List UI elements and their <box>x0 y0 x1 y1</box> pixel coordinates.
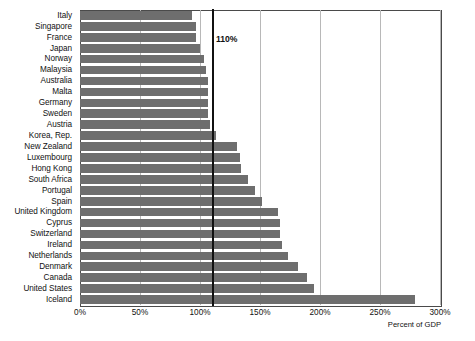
bar <box>80 262 298 271</box>
bar <box>80 153 240 162</box>
category-label: United Kingdom <box>0 207 72 216</box>
x-tick-label: 200% <box>310 308 331 317</box>
category-label: Spain <box>0 197 72 206</box>
bar <box>80 284 314 293</box>
threshold-line-110 <box>212 9 214 306</box>
category-label: New Zealand <box>0 142 72 151</box>
bar <box>80 230 280 239</box>
x-tick-label: 250% <box>370 308 391 317</box>
category-label: Denmark <box>0 262 72 271</box>
bar <box>80 55 204 64</box>
bar <box>80 197 262 206</box>
category-label: Canada <box>0 273 72 282</box>
category-label: Singapore <box>0 22 72 31</box>
bar <box>80 241 282 250</box>
category-label: Germany <box>0 98 72 107</box>
category-label: United States <box>0 284 72 293</box>
bar <box>80 33 196 42</box>
category-label: France <box>0 33 72 42</box>
category-label: Switzerland <box>0 229 72 238</box>
gridline-200 <box>320 10 321 305</box>
bar <box>80 175 248 184</box>
category-label: Korea, Rep. <box>0 131 72 140</box>
bar-chart: ItalySingaporeFranceJapanNorwayMalaysiaA… <box>0 0 475 341</box>
bar <box>80 66 206 75</box>
bar <box>80 252 288 261</box>
bar <box>80 208 278 217</box>
gridline-300 <box>440 10 441 305</box>
category-label: Austria <box>0 120 72 129</box>
category-label: Iceland <box>0 295 72 304</box>
bar <box>80 186 255 195</box>
plot-area: 110% <box>80 10 440 305</box>
category-label: Hong Kong <box>0 164 72 173</box>
x-tick-label: 300% <box>430 308 451 317</box>
x-tick-label: 0% <box>74 308 86 317</box>
gridline-150 <box>260 10 261 305</box>
bar <box>80 109 208 118</box>
bar <box>80 219 280 228</box>
category-label: Japan <box>0 44 72 53</box>
y-axis-category-labels: ItalySingaporeFranceJapanNorwayMalaysiaA… <box>0 10 76 305</box>
category-label: Luxembourg <box>0 153 72 162</box>
bar <box>80 120 210 129</box>
x-axis-title: Percent of GDP <box>0 320 441 329</box>
gridline-250 <box>380 10 381 305</box>
category-label: Australia <box>0 76 72 85</box>
category-label: Ireland <box>0 240 72 249</box>
category-label: Malaysia <box>0 65 72 74</box>
bar <box>80 44 200 53</box>
category-label: Italy <box>0 11 72 20</box>
category-label: Sweden <box>0 109 72 118</box>
category-label: South Africa <box>0 175 72 184</box>
bar <box>80 164 241 173</box>
bar <box>80 77 208 86</box>
bar <box>80 273 307 282</box>
bar <box>80 22 196 31</box>
x-tick-label: 50% <box>132 308 148 317</box>
category-label: Norway <box>0 54 72 63</box>
bar <box>80 88 208 97</box>
category-label: Cyprus <box>0 218 72 227</box>
bar <box>80 295 415 304</box>
category-label: Malta <box>0 87 72 96</box>
category-label: Netherlands <box>0 251 72 260</box>
x-tick-label: 100% <box>190 308 211 317</box>
bar <box>80 99 208 108</box>
x-tick-label: 150% <box>250 308 271 317</box>
category-label: Portugal <box>0 186 72 195</box>
bar <box>80 131 216 140</box>
threshold-line-label: 110% <box>216 34 238 44</box>
bar <box>80 11 192 20</box>
